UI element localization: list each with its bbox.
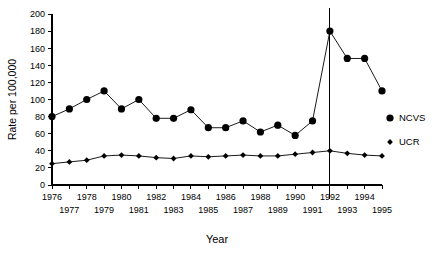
data-point-ncvs[interactable]: NCVS 1976: 80 [48,113,55,120]
data-point-ucr[interactable]: UCR 1994: 35 [362,152,368,158]
data-point-ncvs[interactable]: NCVS 1980: 89 [118,105,125,112]
data-point-ucr[interactable]: UCR 1989: 34 [275,153,281,159]
data-point-ucr[interactable]: UCR 1993: 37 [344,150,350,156]
data-point-ncvs[interactable]: NCVS 1994: 148 [361,55,368,62]
x-tick-label: 1984 [181,192,201,202]
data-point-ncvs[interactable]: NCVS 1992: 180 [326,28,333,35]
data-point-ucr[interactable]: UCR 1978: 29 [84,157,90,163]
data-point-ncvs[interactable]: NCVS 1978: 100 [83,96,90,103]
series-line-ucr [52,151,382,164]
x-tick-label: 1988 [250,192,270,202]
y-tick-label: 0 [40,180,45,190]
data-point-ncvs[interactable]: NCVS 1984: 88 [187,106,194,113]
x-tick-label: 1978 [77,192,97,202]
data-point-ucr[interactable]: UCR 1977: 27 [66,159,72,165]
data-point-ucr[interactable]: UCR 1983: 31 [171,156,177,162]
legend-label-ucr: UCR [399,136,420,147]
x-tick-label: 1980 [111,192,131,202]
data-point-ncvs[interactable]: NCVS 1987: 75 [239,117,246,124]
data-point-ncvs[interactable]: NCVS 1990: 58 [292,132,299,139]
data-point-ncvs[interactable]: NCVS 1982: 78 [153,115,160,122]
x-tick-label: 1991 [303,205,323,215]
x-tick-label: 1990 [285,192,305,202]
y-axis-title: Rate per 100,000 [6,59,18,140]
data-point-ucr[interactable]: UCR 1982: 32 [153,155,159,161]
data-point-ncvs[interactable]: NCVS 1979: 110 [101,87,108,94]
data-point-ncvs[interactable]: NCVS 1991: 75 [309,117,316,124]
x-tick-label: 1989 [268,205,288,215]
data-point-ncvs[interactable]: NCVS 1986: 67 [222,124,229,131]
data-point-ucr[interactable]: UCR 1988: 34 [258,153,264,159]
y-tick-label: 140 [30,61,45,71]
legend-marker-ucr [387,139,393,145]
data-point-ncvs[interactable]: NCVS 1983: 78 [170,115,177,122]
y-tick-label: 100 [30,95,45,105]
data-point-ucr[interactable]: UCR 1995: 34 [379,153,385,159]
y-tick-label: 40 [35,146,45,156]
data-point-ncvs[interactable]: NCVS 1985: 67 [205,124,212,131]
y-tick-label: 200 [30,9,45,19]
y-tick-label: 160 [30,44,45,54]
y-tick-label: 120 [30,78,45,88]
data-point-ucr[interactable]: UCR 1984: 34 [188,153,194,159]
legend-marker-ncvs [386,114,393,121]
line-chart: 0204060801001201401601802001976197719781… [0,0,447,253]
x-tick-label: 1985 [198,205,218,215]
x-tick-label: 1995 [372,205,392,215]
x-tick-label: 1976 [42,192,62,202]
data-point-ucr[interactable]: UCR 1985: 33 [205,154,211,160]
x-tick-label: 1982 [146,192,166,202]
data-point-ucr[interactable]: UCR 1976: 25 [49,161,55,167]
data-point-ucr[interactable]: UCR 1992: 40 [327,148,333,154]
x-tick-label: 1983 [164,205,184,215]
legend-label-ncvs: NCVS [399,112,425,123]
data-point-ncvs[interactable]: NCVS 1988: 62 [257,128,264,135]
y-tick-label: 80 [35,112,45,122]
data-point-ncvs[interactable]: NCVS 1995: 110 [378,87,385,94]
x-tick-label: 1987 [233,205,253,215]
y-tick-label: 180 [30,26,45,36]
x-tick-label: 1986 [216,192,236,202]
y-tick-label: 20 [35,163,45,173]
data-point-ucr[interactable]: UCR 1991: 38 [310,150,316,156]
data-point-ucr[interactable]: UCR 1987: 35 [240,152,246,158]
x-tick-label: 1981 [129,205,149,215]
x-axis-title: Year [206,233,229,245]
data-point-ucr[interactable]: UCR 1990: 36 [292,151,298,157]
y-tick-label: 60 [35,129,45,139]
data-point-ncvs[interactable]: NCVS 1977: 89 [66,105,73,112]
data-point-ucr[interactable]: UCR 1979: 34 [101,153,107,159]
data-point-ucr[interactable]: UCR 1980: 35 [119,152,125,158]
x-tick-label: 1977 [59,205,79,215]
x-tick-label: 1993 [337,205,357,215]
x-tick-label: 1979 [94,205,114,215]
x-tick-label: 1994 [355,192,375,202]
data-point-ncvs[interactable]: NCVS 1981: 100 [135,96,142,103]
data-point-ucr[interactable]: UCR 1981: 34 [136,153,142,159]
data-point-ncvs[interactable]: NCVS 1989: 70 [274,122,281,129]
data-point-ucr[interactable]: UCR 1986: 34 [223,153,229,159]
chart-container: 0204060801001201401601802001976197719781… [0,0,447,253]
series-line-ncvs [52,31,382,135]
data-point-ncvs[interactable]: NCVS 1993: 148 [344,55,351,62]
